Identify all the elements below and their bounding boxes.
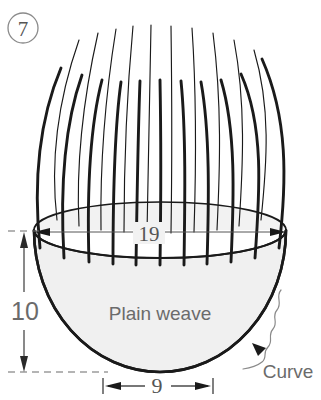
- figure-number-text: 7: [18, 17, 29, 41]
- curve-label: Curve: [263, 361, 314, 382]
- plain-weave-label: Plain weave: [109, 303, 211, 324]
- figure-container: 7: [0, 0, 321, 400]
- rim-diameter-label: 19: [139, 222, 160, 246]
- bowl-depth-label: 10: [11, 297, 39, 325]
- basket-diagram: 7: [0, 0, 321, 400]
- base-width-label: 9: [152, 373, 163, 398]
